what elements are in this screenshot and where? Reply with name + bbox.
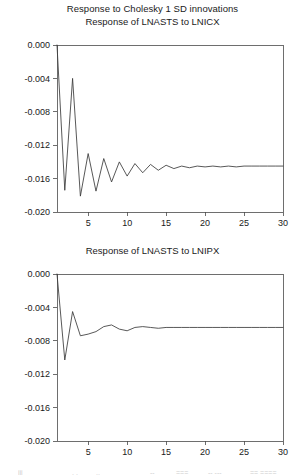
x-axis-tick-label: 20 [200,218,210,228]
y-axis-tick-label: 0.000 [27,269,50,279]
y-axis-tick-label: -0.008 [24,107,50,117]
y-axis-tick-label: -0.020 [24,436,50,446]
x-axis-tick-label: 15 [161,447,171,457]
x-axis-tick-label: 25 [239,218,249,228]
impulse-response-figure: Response to Cholesky 1 SD innovations Re… [0,0,305,476]
y-axis-tick-label: -0.020 [24,207,50,217]
chart-panel-lnipx: Response of LNASTS to LNIPX 0.000-0.004-… [0,245,305,461]
x-axis-tick-label: 15 [161,218,171,228]
x-axis-tick-label: 10 [122,447,132,457]
y-axis-tick-label: 0.000 [27,40,50,50]
y-axis-tick-label: -0.012 [24,369,50,379]
x-axis-tick-label: 10 [122,218,132,228]
y-axis-tick-label: -0.012 [24,140,50,150]
figure-main-title: Response to Cholesky 1 SD innovations [0,3,305,14]
x-axis-tick-label: 5 [86,218,91,228]
x-axis-tick-label: 25 [239,447,249,457]
response-series-line [57,274,283,360]
x-axis-tick-label: 20 [200,447,210,457]
response-series-line [57,45,283,196]
y-axis-tick-label: -0.004 [24,303,50,313]
x-axis-tick-label: 30 [278,447,288,457]
chart-plot-lnipx: 0.000-0.004-0.008-0.012-0.016-0.02051015… [0,245,305,461]
page-edge-artifact: iii. ...--===-- ---== ==== [0,468,305,476]
y-axis-tick-label: -0.008 [24,336,50,346]
y-axis-tick-label: -0.004 [24,74,50,84]
chart-plot-lnicx: 0.000-0.004-0.008-0.012-0.016-0.02051015… [0,16,305,232]
x-axis-tick-label: 30 [278,218,288,228]
y-axis-tick-label: -0.016 [24,174,50,184]
x-axis-tick-label: 5 [86,447,91,457]
chart-panel-lnicx: Response of LNASTS to LNICX 0.000-0.004-… [0,16,305,232]
y-axis-tick-label: -0.016 [24,403,50,413]
